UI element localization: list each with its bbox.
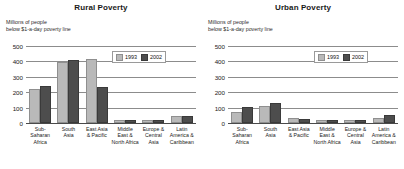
legend-label-1993: 1993 (125, 54, 137, 60)
bar-1993 (171, 116, 182, 123)
ytick-label-200: 200 (13, 89, 23, 96)
bar-1993 (29, 89, 40, 123)
x-category-label: Europe & Central Asia (139, 126, 167, 145)
page-title-urban: Urban Poverty (202, 3, 404, 12)
axis-subtitle-rural: Millions of people below $1-a-day povert… (6, 19, 71, 32)
ytick-label-300: 300 (13, 73, 23, 80)
bar-2002 (384, 115, 395, 123)
x-axis-line: 0 (26, 123, 196, 124)
ytick-label-100: 100 (13, 104, 23, 111)
x-category-label: East Asia & Pacific (285, 126, 313, 145)
legend-item-1993: 1993 (116, 54, 137, 61)
plot-area-rural: 500 400 300 200 100 0 (26, 46, 196, 124)
bar-group (228, 46, 256, 123)
ytick-label-500: 500 (13, 43, 23, 50)
plot-area-urban: 500 400 300 200 100 0 (228, 46, 398, 124)
bar-1993 (344, 120, 355, 123)
ytick-label-500: 500 (215, 43, 225, 50)
page-title-rural: Rural Poverty (0, 3, 202, 12)
bar-1993 (288, 118, 299, 123)
legend-swatch-2002-icon (141, 54, 148, 61)
x-category-label: Middle East & North Africa (313, 126, 341, 145)
legend-swatch-1993-icon (318, 54, 325, 61)
x-category-label: East Asia & Pacific (83, 126, 111, 145)
x-category-label: Latin America & Caribbean (168, 126, 196, 145)
bar-groups-rural (26, 46, 196, 123)
x-axis-line: 0 (228, 123, 398, 124)
bar-2002 (270, 103, 281, 123)
bar-group (256, 46, 284, 123)
bar-2002 (242, 107, 253, 123)
legend-swatch-2002-icon (343, 54, 350, 61)
bar-2002 (153, 120, 164, 123)
bar-2002 (40, 86, 51, 123)
ytick-label-0: 0 (20, 120, 23, 127)
legend-swatch-1993-icon (116, 54, 123, 61)
bar-group (285, 46, 313, 123)
ytick-label-200: 200 (215, 89, 225, 96)
chart-panel-rural: Rural Poverty Millions of people below $… (0, 0, 202, 169)
x-category-label: Europe & Central Asia (341, 126, 369, 145)
bar-group (54, 46, 82, 123)
bar-groups-urban (228, 46, 398, 123)
axis-subtitle-urban: Millions of people below $1-a-day povert… (208, 19, 273, 32)
legend-label-2002: 2002 (150, 54, 162, 60)
x-category-label: Sub- Saharan Africa (228, 126, 256, 145)
bar-group (168, 46, 196, 123)
x-axis-categories-rural: Sub- Saharan Africa South Asia East Asia… (26, 126, 196, 145)
ytick-label-0: 0 (222, 120, 225, 127)
bar-1993 (259, 106, 270, 123)
bar-2002 (182, 116, 193, 123)
x-category-label: Sub- Saharan Africa (26, 126, 54, 145)
bar-2002 (68, 60, 79, 123)
legend-label-2002: 2002 (352, 54, 364, 60)
ytick-label-100: 100 (215, 104, 225, 111)
bar-1993 (316, 120, 327, 123)
legend-rural: 1993 2002 (112, 51, 166, 63)
legend-item-2002: 2002 (141, 54, 162, 61)
bar-1993 (114, 120, 125, 123)
bar-2002 (97, 87, 108, 123)
bar-2002 (355, 120, 366, 123)
bar-1993 (231, 112, 242, 123)
x-category-label: Middle East & North Africa (111, 126, 139, 145)
x-category-label: South Asia (256, 126, 284, 145)
bar-1993 (86, 59, 97, 123)
ytick-label-400: 400 (13, 58, 23, 65)
bar-2002 (125, 120, 136, 123)
legend-label-1993: 1993 (327, 54, 339, 60)
x-axis-categories-urban: Sub- Saharan Africa South Asia East Asia… (228, 126, 398, 145)
legend-item-1993: 1993 (318, 54, 339, 61)
legend-urban: 1993 2002 (314, 51, 368, 63)
ytick-label-300: 300 (215, 73, 225, 80)
bar-2002 (327, 120, 338, 123)
chart-panel-urban: Urban Poverty Millions of people below $… (202, 0, 404, 169)
bar-1993 (142, 120, 153, 123)
poverty-charts-sheet: Rural Poverty Millions of people below $… (0, 0, 404, 169)
bar-1993 (373, 118, 384, 123)
bar-2002 (299, 119, 310, 123)
bar-1993 (57, 62, 68, 123)
bar-group (83, 46, 111, 123)
ytick-label-400: 400 (215, 58, 225, 65)
x-category-label: South Asia (54, 126, 82, 145)
bar-group (370, 46, 398, 123)
x-category-label: Latin America & Caribbean (370, 126, 398, 145)
legend-item-2002: 2002 (343, 54, 364, 61)
bar-group (26, 46, 54, 123)
